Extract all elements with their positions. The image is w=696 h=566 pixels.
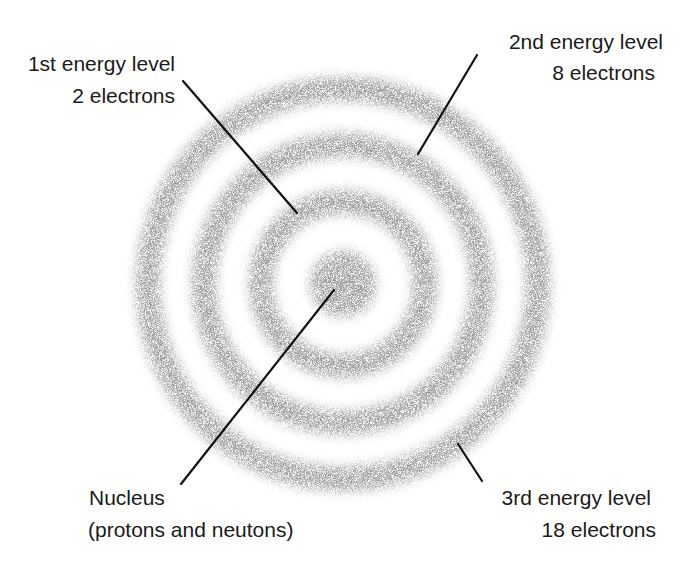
level-3-name: 3rd energy level (502, 486, 651, 509)
level-3-electrons: 18 electrons (542, 518, 656, 541)
nucleus-label: Nucleus (89, 486, 165, 509)
level-1-electrons: 2 electrons (72, 84, 175, 107)
level-2-name: 2nd energy level (509, 30, 663, 53)
atom-diagram: 1st energy level 2 electrons 2nd energy … (0, 0, 696, 566)
level-2-electrons: 8 electrons (552, 61, 655, 84)
leader-line-level-3 (458, 444, 482, 481)
electron-cloud (148, 89, 538, 479)
nucleus-sublabel: (protons and neutons) (88, 518, 293, 541)
level-1-name: 1st energy level (28, 52, 175, 75)
